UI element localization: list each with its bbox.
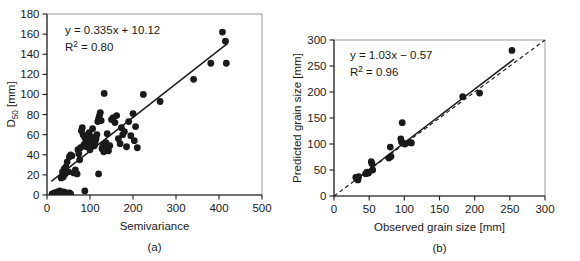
data-point — [369, 167, 376, 174]
data-point — [130, 110, 137, 117]
data-point — [219, 29, 226, 36]
regression-equation-label: y = 0.335x + 10.12 — [65, 24, 160, 36]
data-point — [67, 191, 74, 198]
data-point — [369, 160, 376, 167]
panel-caption: (b) — [432, 242, 446, 254]
data-point — [207, 60, 214, 67]
y-axis-tick-label: 50 — [314, 164, 327, 176]
x-axis-tick-label: 500 — [252, 202, 271, 214]
data-point — [81, 188, 88, 195]
regression-equation-label: y = 1.03x − 0.57 — [350, 49, 432, 61]
x-axis-tick-label: 150 — [430, 203, 449, 215]
x-axis-tick-label: 100 — [395, 203, 414, 215]
x-axis-title: Observed grain size [mm] — [374, 221, 505, 233]
data-point — [93, 131, 100, 138]
x-axis-tick-label: 300 — [535, 203, 554, 215]
panel-a: 0100200300400500020406080100120140160180… — [0, 0, 290, 261]
data-point — [132, 123, 139, 130]
data-point — [101, 90, 108, 97]
panel-b: 050100150200250300050100150200250300y = … — [290, 0, 580, 261]
data-point — [125, 118, 132, 125]
data-point — [388, 153, 395, 160]
x-axis-tick-label: 300 — [166, 202, 185, 214]
data-point — [131, 137, 138, 144]
y-axis-tick-label: 60 — [27, 129, 40, 141]
data-point — [74, 170, 81, 177]
y-axis-tick-label: 100 — [307, 138, 326, 150]
y-axis-title: D50 [mm] — [5, 81, 20, 127]
data-point — [98, 117, 105, 124]
y-axis-tick-label: 140 — [20, 48, 39, 60]
y-axis-tick-label: 40 — [27, 149, 40, 161]
data-point — [79, 124, 86, 131]
data-point — [408, 140, 415, 147]
data-point — [157, 98, 164, 105]
data-point — [104, 130, 111, 137]
x-axis-tick-label: 0 — [44, 202, 50, 214]
data-point — [123, 143, 130, 150]
y-axis-tick-label: 0 — [33, 189, 39, 201]
x-axis-tick-label: 400 — [209, 202, 228, 214]
data-point — [117, 140, 124, 147]
y-axis-tick-label: 160 — [20, 28, 39, 40]
data-point — [112, 119, 119, 126]
data-point — [459, 93, 466, 100]
data-point — [113, 112, 120, 119]
panel-caption: (a) — [147, 241, 161, 253]
data-point — [97, 109, 104, 116]
y-axis-tick-label: 0 — [320, 190, 326, 202]
data-point — [134, 144, 141, 151]
data-point — [140, 91, 147, 98]
r-squared-label: R2 = 0.96 — [350, 65, 398, 78]
data-point — [75, 150, 82, 157]
data-point — [190, 76, 197, 83]
r-squared-label: R2 = 0.80 — [65, 40, 113, 53]
panel-b-plot: 050100150200250300050100150200250300y = … — [290, 0, 580, 261]
y-axis-tick-label: 100 — [20, 88, 39, 100]
data-point — [355, 173, 362, 180]
y-axis-tick-label: 20 — [27, 169, 40, 181]
x-axis-tick-label: 100 — [80, 202, 99, 214]
x-axis-tick-label: 250 — [500, 203, 519, 215]
figure-container: 0100200300400500020406080100120140160180… — [0, 0, 580, 261]
y-axis-tick-label: 300 — [307, 34, 326, 46]
x-axis-tick-label: 50 — [363, 203, 376, 215]
data-point — [399, 119, 406, 126]
data-point — [106, 142, 113, 149]
data-point — [222, 38, 229, 45]
data-point — [95, 170, 102, 177]
data-point — [69, 152, 76, 159]
panel-a-plot: 0100200300400500020406080100120140160180… — [0, 0, 290, 261]
data-point — [76, 156, 83, 163]
x-axis-tick-label: 0 — [331, 203, 337, 215]
x-axis-tick-label: 200 — [465, 203, 484, 215]
data-point — [121, 128, 128, 135]
y-axis-tick-label: 180 — [20, 8, 39, 20]
data-point — [509, 47, 516, 54]
y-axis-tick-label: 80 — [27, 109, 40, 121]
data-point — [89, 125, 96, 132]
y-axis-title: Predicted grain size [mm] — [291, 53, 303, 183]
data-point — [476, 90, 483, 97]
x-axis-tick-label: 200 — [123, 202, 142, 214]
y-axis-tick-label: 120 — [20, 68, 39, 80]
y-axis-tick-label: 250 — [307, 60, 326, 72]
y-axis-tick-label: 150 — [307, 112, 326, 124]
y-axis-tick-label: 200 — [307, 86, 326, 98]
data-point — [387, 144, 394, 151]
x-axis-title: Semivariance — [120, 220, 190, 232]
data-point — [223, 60, 230, 67]
